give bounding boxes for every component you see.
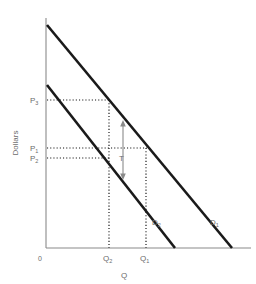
price-tick-p2-sub: 2 (35, 158, 38, 164)
quantity-tick-q1-sub: 1 (146, 258, 149, 264)
origin-label: 0 (38, 255, 42, 262)
price-tick-p1-sub: 1 (35, 148, 38, 154)
price-tick-p3-sub: 3 (35, 100, 38, 106)
curve-label-d2-sub: 2 (158, 222, 161, 228)
demand-shift-figure: P3 P1 P2 Q2 Q1 0 D1 D2 T Dollars Q (0, 0, 256, 284)
curve-label-d1-sub: 1 (216, 222, 219, 228)
y-axis-title: Dollars (11, 131, 20, 156)
tax-wedge-label: T (119, 154, 124, 163)
quantity-tick-q2-sub: 2 (109, 258, 112, 264)
chart-background (0, 0, 256, 284)
chart-canvas: P3 P1 P2 Q2 Q1 0 D1 D2 T Dollars Q (0, 0, 256, 284)
x-axis-title: Q (121, 271, 127, 280)
